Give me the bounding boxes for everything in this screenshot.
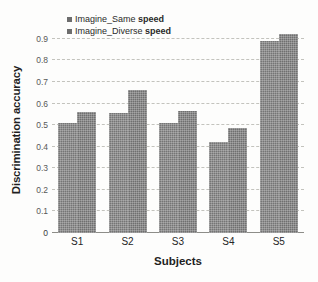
bar-group: [159, 28, 197, 233]
y-axis-tick-label: 0.3: [36, 163, 48, 173]
bar[interactable]: [77, 112, 96, 233]
bar-chart-figure: Discrimination accuracy Imagine_Same spe…: [0, 0, 318, 282]
bar-group: [58, 28, 96, 233]
plot-area: 00.10.20.30.40.50.60.70.80.9: [52, 28, 304, 233]
x-axis-tick-label: S2: [108, 236, 148, 247]
y-axis-tick-label: 0.5: [36, 120, 48, 130]
bar-group: [109, 28, 147, 233]
y-axis-tick-label: 0.9: [36, 34, 48, 44]
y-axis-tick-label: 0.6: [36, 99, 48, 109]
bar[interactable]: [260, 41, 279, 233]
x-axis-tick-label: S5: [259, 236, 299, 247]
x-axis-tick-labels: S1S2S3S4S5: [52, 236, 304, 247]
bar[interactable]: [228, 128, 247, 233]
bar[interactable]: [178, 111, 197, 233]
y-axis-tick-label: 0: [43, 228, 48, 238]
x-axis-tick-label: S3: [158, 236, 198, 247]
legend-swatch-icon: [67, 29, 72, 34]
y-axis-tick-label: 0.4: [36, 142, 48, 152]
bar[interactable]: [279, 34, 298, 233]
bar[interactable]: [128, 90, 147, 234]
legend-item-imagine-diverse[interactable]: Imagine_Diverse speed: [66, 26, 172, 36]
legend-item-imagine-same[interactable]: Imagine_Same speed: [66, 14, 172, 24]
bar-group: [260, 28, 298, 233]
bar-group: [209, 28, 247, 233]
y-axis-tick-label: 0.2: [36, 185, 48, 195]
legend-label: Imagine_Diverse speed: [75, 26, 171, 36]
x-axis-title: Subjects: [52, 255, 304, 267]
legend-label: Imagine_Same speed: [75, 14, 164, 24]
chart-legend: Imagine_Same speed Imagine_Diverse speed: [66, 14, 172, 36]
bar[interactable]: [58, 123, 77, 233]
y-axis-title: Discrimination accuracy: [10, 30, 22, 230]
bar[interactable]: [109, 113, 128, 233]
x-axis-tick-label: S1: [57, 236, 97, 247]
y-axis-tick-label: 0.1: [36, 206, 48, 216]
y-axis-tick-label: 0.8: [36, 55, 48, 65]
y-axis-tick-label: 0.7: [36, 77, 48, 87]
bar[interactable]: [159, 123, 178, 233]
x-axis-tick-label: S4: [208, 236, 248, 247]
bar[interactable]: [209, 142, 228, 233]
legend-swatch-icon: [67, 17, 72, 22]
bar-groups: [52, 28, 304, 233]
